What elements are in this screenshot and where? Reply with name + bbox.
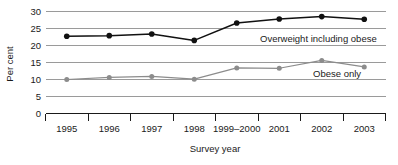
data-point xyxy=(191,38,197,44)
x-tick-label-2003: 2003 xyxy=(354,123,375,134)
data-point xyxy=(64,34,70,40)
x-axis-tick-labels: 1995 1996 1997 1998 1999–2000 2001 2002 … xyxy=(56,123,375,134)
x-tick-label-1999-2000: 1999–2000 xyxy=(213,123,261,134)
x-tick-label-1996: 1996 xyxy=(99,123,120,134)
x-tick-label-1998: 1998 xyxy=(184,123,205,134)
y-tick-label-25: 25 xyxy=(30,23,41,34)
x-tick-label-2002: 2002 xyxy=(311,123,332,134)
data-point xyxy=(319,14,325,20)
data-point xyxy=(149,31,155,37)
data-point xyxy=(149,74,154,79)
series-label-obese: Obese only xyxy=(313,68,361,79)
x-axis-title: Survey year xyxy=(190,143,241,154)
data-point xyxy=(362,64,367,69)
y-tick-label-10: 10 xyxy=(30,74,41,85)
data-point xyxy=(319,58,324,63)
x-tick-label-1997: 1997 xyxy=(141,123,162,134)
data-point xyxy=(192,77,197,82)
x-tick-label-2001: 2001 xyxy=(269,123,290,134)
y-tick-label-0: 0 xyxy=(36,108,41,119)
y-tick-label-15: 15 xyxy=(30,57,41,68)
y-axis-title: Per cent xyxy=(4,46,15,82)
y-tick-label-30: 30 xyxy=(30,6,41,17)
data-point xyxy=(64,77,69,82)
data-point xyxy=(107,75,112,80)
data-point xyxy=(277,66,282,71)
y-axis-tick-labels: 30 25 20 15 10 5 0 xyxy=(30,6,41,119)
gridlines xyxy=(46,12,386,97)
data-point xyxy=(234,20,240,26)
x-axis-tickmarks xyxy=(46,114,386,121)
chart-container: 30 25 20 15 10 5 0 Per cent 1995 199 xyxy=(0,0,398,165)
data-point xyxy=(361,17,367,23)
data-point xyxy=(234,65,239,70)
y-tick-label-5: 5 xyxy=(36,91,41,102)
line-chart: 30 25 20 15 10 5 0 Per cent 1995 199 xyxy=(0,0,398,165)
series-label-overweight: Overweight including obese xyxy=(260,33,377,44)
x-tick-label-1995: 1995 xyxy=(56,123,77,134)
data-point xyxy=(276,16,282,22)
y-tick-label-20: 20 xyxy=(30,40,41,51)
data-point xyxy=(106,33,112,39)
